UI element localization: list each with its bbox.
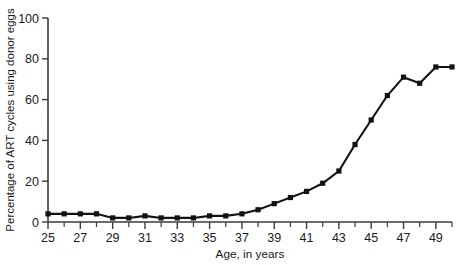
data-series-line (48, 67, 452, 218)
x-tick-label: 33 (170, 231, 184, 245)
y-tick-label: 80 (25, 52, 39, 66)
data-point (78, 211, 83, 216)
data-point (175, 215, 180, 220)
data-point (223, 213, 228, 218)
data-point (142, 213, 147, 218)
data-point (45, 211, 50, 216)
data-point (191, 215, 196, 220)
y-axis: 020406080100 (18, 12, 48, 230)
x-axis-title: Age, in years (216, 247, 285, 261)
data-point (417, 81, 422, 86)
x-axis: 25272931333537394143454749 (41, 222, 452, 245)
x-tick-label: 31 (138, 231, 152, 245)
x-tick-label: 47 (397, 231, 411, 245)
x-tick-label: 45 (364, 231, 378, 245)
data-point (336, 168, 341, 173)
x-tick-label: 25 (41, 231, 55, 245)
data-point (272, 201, 277, 206)
data-point (159, 215, 164, 220)
data-point (288, 195, 293, 200)
y-tick-label: 20 (25, 175, 39, 189)
plot-area (45, 64, 454, 220)
y-axis-title: Percentage of ART cycles using donor egg… (4, 8, 16, 232)
y-tick-label: 0 (32, 216, 39, 230)
x-axis-tick-labels: 25272931333537394143454749 (41, 231, 443, 245)
line-chart: 020406080100 25272931333537394143454749 … (0, 0, 460, 265)
data-point (94, 211, 99, 216)
data-point (239, 211, 244, 216)
chart-container: 020406080100 25272931333537394143454749 … (0, 0, 460, 265)
data-point (385, 93, 390, 98)
data-point (126, 215, 131, 220)
x-tick-label: 27 (73, 231, 87, 245)
x-tick-label: 41 (300, 231, 314, 245)
data-point (449, 64, 454, 69)
data-point (352, 142, 357, 147)
data-point (369, 117, 374, 122)
y-axis-ticks (42, 18, 48, 222)
x-tick-label: 39 (267, 231, 281, 245)
data-point (62, 211, 67, 216)
data-point (255, 207, 260, 212)
y-tick-label: 60 (25, 93, 39, 107)
x-tick-label: 37 (235, 231, 249, 245)
y-axis-tick-labels: 020406080100 (18, 12, 39, 230)
x-tick-label: 43 (332, 231, 346, 245)
data-point (401, 75, 406, 80)
y-tick-label: 100 (18, 12, 39, 26)
y-tick-label: 40 (25, 134, 39, 148)
data-point (110, 215, 115, 220)
data-point (433, 64, 438, 69)
x-tick-label: 29 (106, 231, 120, 245)
data-point (207, 213, 212, 218)
data-point (320, 181, 325, 186)
x-tick-label: 49 (429, 231, 443, 245)
x-axis-ticks (48, 222, 452, 229)
data-point (304, 189, 309, 194)
x-tick-label: 35 (203, 231, 217, 245)
